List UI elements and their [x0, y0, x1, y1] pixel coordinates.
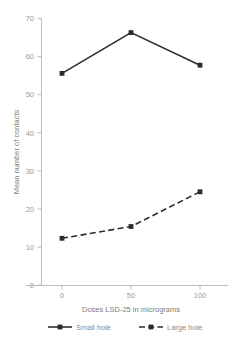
legend-label-small-hole: Small hole [76, 323, 111, 332]
y-tick-label: 50 [26, 90, 34, 99]
data-point-marker [60, 236, 65, 241]
y-tick-label: 20 [26, 205, 34, 214]
line-chart: 70 60 50 40 30 20 10 0 Mean number of co… [0, 0, 236, 339]
chart-container: 70 60 50 40 30 20 10 0 Mean number of co… [0, 0, 236, 339]
chart-background [0, 0, 236, 339]
x-axis-title: Doses LSD-25 in micrograms [82, 305, 180, 314]
data-point-marker [129, 30, 134, 35]
data-point-marker [198, 189, 203, 194]
y-tick-label: 70 [26, 14, 34, 23]
y-axis-title: Mean number of contacts [12, 109, 21, 194]
legend-marker [149, 325, 154, 330]
data-point-marker [198, 63, 203, 68]
x-tick-label: 100 [194, 291, 207, 300]
y-tick-label: 40 [26, 129, 34, 138]
x-tick-label: 0 [60, 291, 64, 300]
data-point-marker [60, 71, 65, 76]
y-tick-label: 30 [26, 167, 34, 176]
x-tick-label: 50 [127, 291, 135, 300]
legend-label-large-hole: Large hole [167, 323, 202, 332]
legend-marker [58, 325, 63, 330]
data-point-marker [129, 224, 134, 229]
y-tick-label: 60 [26, 52, 34, 61]
y-tick-label: 10 [26, 243, 34, 252]
